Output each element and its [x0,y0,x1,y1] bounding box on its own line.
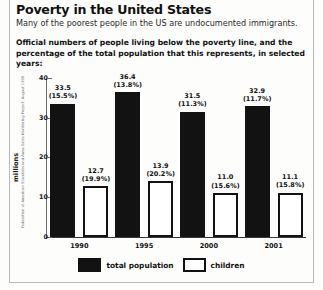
bar-rect [180,112,205,237]
x-axis-line [46,237,306,239]
bar-value: 12.7 [88,167,104,175]
bar-group-1995: 36.4(13.8%)13.9(20.2%) [115,78,173,237]
bar-value-label: 36.4(13.8%) [113,73,142,90]
bar-value-label: 11.0(15.6%) [211,173,240,190]
y-tick-20: 20 [22,153,48,161]
right-rule [313,0,314,283]
bar-value-label: 32.9(11.7%) [243,87,272,104]
left-rule [9,0,10,283]
header: Poverty in the United States Many of the… [16,3,308,29]
y-axis-label: millions [12,153,20,182]
x-tick-2001: 2001 [245,242,303,250]
bar-value: 36.4 [120,73,136,81]
bar-value: 11.0 [217,173,233,181]
bar-rect [278,193,303,237]
figure-panel: Federation of American Scientists and Ar… [0,0,323,290]
bar-chart: millions 010203040 33.5(15.5%)12.7(19.9%… [16,70,308,252]
bar-percent: (19.9%) [82,175,111,183]
bar-rect [245,106,270,236]
bar-percent: (11.3%) [178,100,207,108]
x-tick-group: 1990199520002001 [47,242,306,250]
y-tick-10: 10 [22,193,48,201]
legend-swatch [183,258,206,272]
bottom-rule [9,282,314,283]
bar-group-2001: 32.9(11.7%)11.1(15.8%) [245,78,303,237]
bar-1995-total-population[interactable]: 36.4(13.8%) [115,78,140,237]
y-tick-40: 40 [22,74,48,82]
bar-value: 13.9 [153,162,169,170]
plot-area: 010203040 33.5(15.5%)12.7(19.9%)36.4(13.… [46,78,306,238]
bar-percent: (15.6%) [211,182,240,190]
page-title: Poverty in the United States [16,3,308,17]
bar-rect [115,92,140,236]
page-subtitle: Many of the poorest people in the US are… [16,18,308,29]
bar-value-label: 33.5(15.5%) [49,84,78,101]
bar-rect [83,186,108,236]
y-tick-30: 30 [22,114,48,122]
x-tick-1990: 1990 [50,242,108,250]
bar-group-container: 33.5(15.5%)12.7(19.9%)36.4(13.8%)13.9(20… [47,78,306,237]
y-tick-mark [48,237,52,238]
legend-item-children[interactable]: children [183,258,245,272]
chart-legend: total populationchildren [0,258,323,272]
bar-group-2000: 31.5(11.3%)11.0(15.6%) [180,78,238,237]
bar-percent: (11.7%) [243,95,272,103]
bar-value-label: 13.9(20.2%) [146,162,175,179]
bar-2001-children[interactable]: 11.1(15.8%) [278,78,303,237]
bar-value-label: 11.1(15.8%) [276,173,305,190]
x-tick-2000: 2000 [180,242,238,250]
bar-rect [148,181,173,236]
bar-2000-children[interactable]: 11.0(15.6%) [213,78,238,237]
bar-percent: (15.5%) [49,92,78,100]
legend-item-total-population[interactable]: total population [78,258,173,272]
bar-group-1990: 33.5(15.5%)12.7(19.9%) [50,78,108,237]
bar-percent: (20.2%) [146,170,175,178]
legend-label: children [211,261,245,270]
bar-value-label: 12.7(19.9%) [82,167,111,184]
bar-1990-children[interactable]: 12.7(19.9%) [83,78,108,237]
bar-rect [213,193,238,237]
bar-value: 11.1 [282,173,298,181]
bar-1990-total-population[interactable]: 33.5(15.5%) [50,78,75,237]
bar-value: 33.5 [55,84,71,92]
chart-description: Official numbers of people living below … [16,38,306,70]
legend-swatch [78,258,101,272]
bar-percent: (13.8%) [113,81,142,89]
y-tick-0: 0 [22,233,48,241]
legend-label: total population [106,261,173,270]
bar-value: 32.9 [249,87,265,95]
bar-value-label: 31.5(11.3%) [178,92,207,109]
bar-rect [50,104,75,237]
bar-2000-total-population[interactable]: 31.5(11.3%) [180,78,205,237]
x-tick-1995: 1995 [115,242,173,250]
bar-percent: (15.8%) [276,181,305,189]
bar-1995-children[interactable]: 13.9(20.2%) [148,78,173,237]
bar-2001-total-population[interactable]: 32.9(11.7%) [245,78,270,237]
bar-value: 31.5 [184,92,200,100]
